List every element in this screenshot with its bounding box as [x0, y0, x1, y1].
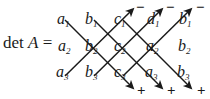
- entry-sub: 2: [121, 46, 126, 56]
- matrix-entry-r2c5: b2: [178, 38, 191, 54]
- minus-sign-1: −: [136, 0, 145, 15]
- entry-sub: 3: [153, 72, 158, 82]
- determinant-expression: det A =: [3, 34, 57, 51]
- entry-sub: 2: [154, 46, 159, 56]
- entry-sub: 2: [186, 46, 191, 56]
- entry-sub: 3: [64, 72, 69, 82]
- minus-sign-3: −: [196, 0, 205, 15]
- entry-base: b: [85, 10, 93, 27]
- matrix-entry-r1c1: a1: [57, 11, 70, 27]
- plus-sign-2: +: [167, 83, 176, 98]
- entry-base: a: [145, 63, 153, 80]
- matrix-entry-r3c4: a3: [145, 64, 158, 80]
- entry-base: b: [178, 37, 186, 54]
- plus-sign-3: +: [197, 83, 206, 98]
- matrix-entry-r2c1: a2: [58, 38, 71, 54]
- matrix-entry-r1c2: b1: [85, 11, 98, 27]
- matrix-entry-r2c3: c2: [114, 38, 126, 54]
- ascending-diagonal-group: [65, 11, 189, 76]
- entry-base: a: [57, 10, 65, 27]
- entry-sub: 1: [121, 19, 126, 29]
- entry-base: a: [56, 63, 64, 80]
- entry-base: b: [85, 63, 93, 80]
- matrix-entry-r1c4: d1: [147, 11, 160, 27]
- matrix-entry-r3c1: a3: [56, 64, 69, 80]
- entry-sub: 1: [65, 19, 70, 29]
- matrix-entry-r3c5: b3: [177, 64, 190, 80]
- entry-sub: 1: [187, 19, 192, 29]
- matrix-entry-r3c2: b3: [85, 64, 98, 80]
- equals-sign: =: [43, 33, 53, 52]
- entry-sub: 3: [93, 72, 98, 82]
- entry-sub: 2: [66, 46, 71, 56]
- entry-base: d: [147, 10, 155, 27]
- determinant-sarrus-figure: det A = a1 b1 c1 d1 b1 a2 b2 c2 a2 b2 a3…: [0, 0, 210, 99]
- matrix-entry-r1c3: c1: [114, 11, 126, 27]
- entry-base: a: [58, 37, 66, 54]
- matrix-entry-r2c4: a2: [146, 38, 159, 54]
- matrix-entry-r3c3: c3: [114, 64, 126, 80]
- entry-sub: 1: [155, 19, 160, 29]
- matrix-entry-r1c5: b1: [179, 11, 192, 27]
- matrix-letter: A: [28, 33, 38, 52]
- entry-base: b: [177, 63, 185, 80]
- plus-sign-1: +: [137, 83, 146, 98]
- entry-sub: 2: [93, 46, 98, 56]
- matrix-entry-r2c2: b2: [85, 38, 98, 54]
- entry-base: b: [85, 37, 93, 54]
- entry-sub: 1: [93, 19, 98, 29]
- minus-sign-2: −: [166, 0, 175, 15]
- entry-base: a: [146, 37, 154, 54]
- entry-base: b: [179, 10, 187, 27]
- entry-sub: 3: [121, 72, 126, 82]
- det-keyword: det: [3, 33, 24, 52]
- entry-sub: 3: [185, 72, 190, 82]
